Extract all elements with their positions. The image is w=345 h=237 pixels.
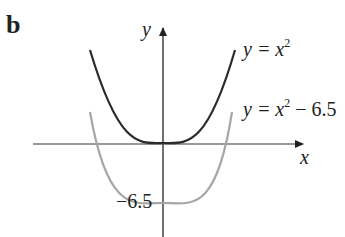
x-axis-label: x bbox=[300, 146, 309, 169]
y-axis-label: y bbox=[142, 18, 151, 41]
panel-label: b bbox=[6, 10, 20, 40]
y-tick-label: −6.5 bbox=[116, 190, 152, 213]
curve-y-equals-x-squared-minus-6-5 bbox=[90, 112, 232, 203]
eq2-suffix: − 6.5 bbox=[290, 98, 336, 120]
eq1-text: y = x bbox=[243, 38, 284, 60]
eq2-text: y = x bbox=[243, 98, 284, 120]
figure-panel-b: b y x y = x2 y = x2 − 6.5 −6.5 bbox=[0, 0, 345, 237]
curve-label-x-squared-minus-6-5: y = x2 − 6.5 bbox=[243, 98, 337, 121]
eq1-exponent: 2 bbox=[284, 36, 290, 50]
eq2-exponent: 2 bbox=[284, 96, 290, 110]
curve-label-x-squared: y = x2 bbox=[243, 38, 290, 61]
